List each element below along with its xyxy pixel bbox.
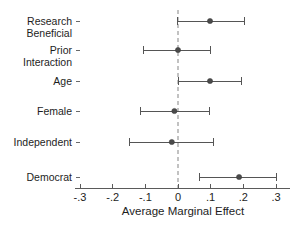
y-axis-category-label: Democrat bbox=[26, 171, 72, 183]
estimate-marker bbox=[169, 139, 174, 144]
x-axis-tick-label: .2 bbox=[239, 191, 248, 203]
estimate-marker bbox=[172, 108, 177, 113]
plot-canvas: ResearchBeneficialPriorInteractionAgeFem… bbox=[0, 0, 297, 231]
y-axis-category-label: Interaction bbox=[23, 56, 72, 68]
y-axis-category-label: Female bbox=[37, 105, 72, 117]
y-axis-category-label: Prior bbox=[50, 44, 73, 56]
coefficient-plot-figure: ResearchBeneficialPriorInteractionAgeFem… bbox=[0, 0, 297, 231]
x-axis-tick-label: .3 bbox=[271, 191, 280, 203]
x-axis-tick-label: -.1 bbox=[139, 191, 152, 203]
estimate-marker bbox=[175, 47, 180, 52]
estimate-marker bbox=[207, 78, 212, 83]
y-axis-category-label: Beneficial bbox=[26, 27, 72, 39]
x-axis-title: Average Marginal Effect bbox=[122, 205, 245, 217]
y-axis-category-label: Research bbox=[27, 15, 72, 27]
x-axis-tick-label: .1 bbox=[206, 191, 215, 203]
estimate-marker bbox=[236, 174, 241, 179]
estimate-marker bbox=[207, 18, 212, 23]
y-axis-category-label: Independent bbox=[14, 136, 72, 148]
y-axis-category-label: Age bbox=[53, 75, 72, 87]
x-axis-tick-label: -.2 bbox=[106, 191, 119, 203]
x-axis-tick-label: -.3 bbox=[74, 191, 87, 203]
x-axis-tick-label: 0 bbox=[175, 191, 181, 203]
